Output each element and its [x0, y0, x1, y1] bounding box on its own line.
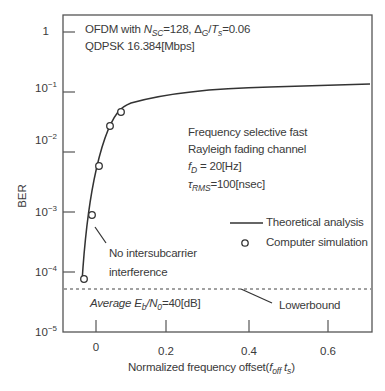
ebn0-annotation: Average Eb/N0=40[dB]	[90, 297, 200, 312]
sim-point	[118, 109, 125, 116]
chart-plot-area	[0, 0, 385, 391]
channel-annotation-line1: Frequency selective fast	[188, 126, 307, 138]
legend-simulation-label: Computer simulation	[266, 236, 368, 248]
legend-circle-icon	[242, 240, 248, 246]
xtick-label-0: 0	[81, 341, 111, 353]
no-ici-annotation-line2: interference	[109, 266, 167, 278]
sim-point	[81, 276, 88, 283]
xtick-label-0.4: 0.4	[234, 345, 264, 357]
y-axis-label: BER	[16, 184, 28, 208]
y-axis-ticks	[63, 32, 75, 272]
legend-theoretical-label: Theoretical analysis	[266, 216, 364, 228]
sim-point	[89, 212, 96, 219]
ytick-label-1e-5: 10−5	[17, 326, 57, 338]
ytick-label-1: 1	[9, 25, 49, 37]
doppler-annotation: fD = 20[Hz]	[188, 160, 242, 175]
x-axis-ticks	[96, 320, 328, 332]
lowerbound-label: Lowerbound	[279, 299, 340, 311]
no-ici-annotation-line1: No intersubcarrier	[109, 247, 197, 259]
delay-spread-annotation: τRMS=100[nsec]	[188, 178, 265, 193]
ytick-label-1e-4: 10−4	[17, 266, 57, 278]
lowerbound-leader	[241, 289, 272, 303]
xtick-label-0.6: 0.6	[313, 345, 343, 357]
header-annotation-line2: QDPSK 16.384[Mbps]	[85, 40, 195, 52]
sim-point	[96, 163, 103, 170]
no-ici-leader	[95, 227, 106, 243]
sim-point	[107, 123, 114, 130]
ytick-label-1e-2: 10−2	[17, 134, 57, 146]
ytick-label-1e-1: 10−1	[17, 82, 57, 94]
xtick-label-0.2: 0.2	[151, 345, 181, 357]
x-axis-label: Normalized frequency offset(foff ts)	[128, 361, 295, 376]
header-annotation-line1: OFDM with NSC=128, ΔG/Ts=0.06	[85, 23, 250, 38]
channel-annotation-line2: Rayleigh fading channel	[188, 143, 306, 155]
